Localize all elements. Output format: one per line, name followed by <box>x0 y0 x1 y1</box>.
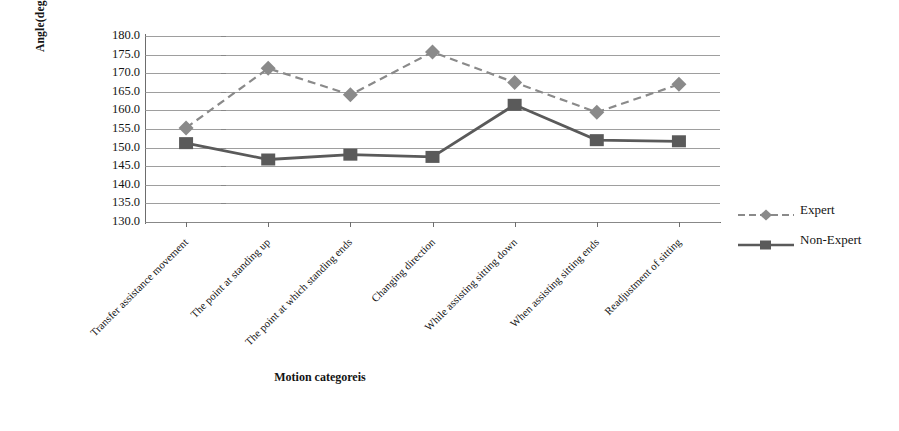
y-tick-label: 175.0 <box>84 48 140 60</box>
legend-key-expert-icon <box>738 209 794 221</box>
grid-line <box>145 166 720 167</box>
y-tick-label: 165.0 <box>84 85 140 97</box>
x-tick-mark <box>268 222 269 227</box>
x-tick-mark <box>679 222 680 227</box>
x-tick-mark <box>515 222 516 227</box>
y-tick-label: 145.0 <box>84 159 140 171</box>
legend-item-non-expert[interactable]: Non-Expert <box>738 230 893 260</box>
grid-line <box>145 110 720 111</box>
y-tick-label: 160.0 <box>84 103 140 115</box>
grid-line <box>145 92 720 93</box>
legend-label-non-expert: Non-Expert <box>800 232 861 248</box>
y-tick-label: 130.0 <box>84 215 140 227</box>
y-axis-tick-labels: 180.0175.0170.0165.0160.0155.0150.0145.0… <box>80 0 140 431</box>
legend-label-expert: Expert <box>800 202 835 218</box>
chart-container: Angle(degree) 180.0175.0170.0165.0160.01… <box>0 0 899 431</box>
y-tick-label: 135.0 <box>84 196 140 208</box>
y-tick-label: 170.0 <box>84 66 140 78</box>
y-tick-label: 140.0 <box>84 178 140 190</box>
x-tick-mark <box>186 222 187 227</box>
x-tick-mark <box>597 222 598 227</box>
grid-line <box>145 36 720 37</box>
grid-line <box>145 55 720 56</box>
chart-legend: Expert Non-Expert <box>738 200 893 260</box>
legend-key-non-expert-icon <box>738 239 794 251</box>
x-tick-mark <box>433 222 434 227</box>
grid-line <box>145 148 720 149</box>
y-axis-title: Angle(degree) <box>34 0 46 52</box>
legend-item-expert[interactable]: Expert <box>738 200 893 230</box>
plot-area <box>145 36 720 222</box>
grid-line <box>145 185 720 186</box>
grid-line <box>145 73 720 74</box>
y-tick-label: 150.0 <box>84 141 140 153</box>
x-axis-title: Motion categoreis <box>0 370 640 385</box>
x-tick-mark <box>350 222 351 227</box>
grid-line <box>145 203 720 204</box>
y-tick-label: 180.0 <box>84 29 140 41</box>
y-tick-label: 155.0 <box>84 122 140 134</box>
grid-line <box>145 129 720 130</box>
